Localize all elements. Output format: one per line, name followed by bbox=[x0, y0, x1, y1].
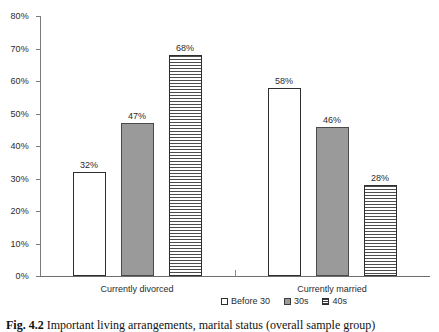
bar-currently-married-30s[interactable]: 46% bbox=[316, 127, 349, 277]
y-axis-tick: 60% bbox=[36, 81, 40, 82]
y-axis-tick-label: 50% bbox=[10, 109, 29, 119]
bar-currently-divorced-before-30[interactable]: 32% bbox=[73, 172, 106, 276]
y-axis-tick-label: 30% bbox=[10, 174, 29, 184]
y-axis-tick-label: 80% bbox=[10, 11, 29, 21]
legend-label-40s: 40s bbox=[332, 296, 347, 306]
figure-caption-text: Important living arrangements, marital s… bbox=[47, 318, 376, 332]
empty-square-marker-icon bbox=[221, 298, 228, 305]
y-axis-tick-label: 20% bbox=[10, 206, 29, 216]
bar-value-label: 32% bbox=[80, 160, 98, 170]
bar-currently-divorced-40s[interactable]: 68% bbox=[169, 55, 202, 276]
y-axis-tick: 70% bbox=[36, 49, 40, 50]
bar-value-label: 46% bbox=[323, 115, 341, 125]
legend-label-30s: 30s bbox=[294, 296, 309, 306]
bar-value-label: 58% bbox=[275, 76, 293, 86]
bar-currently-divorced-30s[interactable]: 47% bbox=[121, 123, 154, 276]
y-axis-tick: 50% bbox=[36, 114, 40, 115]
chart-plot-area: 0%10%20%30%40%50%60%70%80% 32%47%68%58%4… bbox=[40, 16, 430, 277]
category-label-currently-married: Currently married bbox=[297, 284, 367, 294]
legend-item-40s[interactable]: 40s bbox=[322, 296, 347, 306]
y-axis-tick: 80% bbox=[36, 16, 40, 17]
filled-square-marker-icon bbox=[284, 298, 291, 305]
y-axis-line bbox=[40, 16, 41, 277]
bar-value-label: 68% bbox=[176, 43, 194, 53]
y-axis-tick-label: 10% bbox=[10, 239, 29, 249]
chart-legend: Before 30 30s 40s bbox=[0, 296, 431, 306]
figure-caption: Fig. 4.2 Important living arrangements, … bbox=[6, 318, 433, 332]
figure-caption-number: Fig. 4.2 bbox=[6, 318, 44, 332]
y-axis-tick-label: 40% bbox=[10, 141, 29, 151]
legend-item-30s[interactable]: 30s bbox=[284, 296, 309, 306]
y-axis-tick-label: 70% bbox=[10, 44, 29, 54]
category-separator bbox=[235, 270, 236, 277]
bar-value-label: 47% bbox=[128, 111, 146, 121]
striped-square-marker-icon bbox=[322, 298, 329, 305]
y-axis-tick: 0% bbox=[36, 276, 40, 277]
y-axis-tick: 10% bbox=[36, 244, 40, 245]
y-axis-tick: 40% bbox=[36, 146, 40, 147]
category-label-currently-divorced: Currently divorced bbox=[100, 284, 173, 294]
y-axis-tick-label: 60% bbox=[10, 76, 29, 86]
y-axis-tick: 20% bbox=[36, 211, 40, 212]
legend-item-before-30[interactable]: Before 30 bbox=[221, 296, 270, 306]
y-axis-tick-label: 0% bbox=[16, 271, 29, 281]
legend-label-before-30: Before 30 bbox=[231, 296, 270, 306]
bar-currently-married-40s[interactable]: 28% bbox=[364, 185, 397, 276]
bar-value-label: 28% bbox=[371, 173, 389, 183]
bar-currently-married-before-30[interactable]: 58% bbox=[268, 88, 301, 277]
y-axis-tick: 30% bbox=[36, 179, 40, 180]
